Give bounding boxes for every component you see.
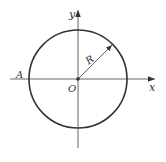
diagram-svg: y x O A R	[0, 0, 166, 162]
point-a-label: A	[15, 69, 23, 80]
x-axis-label: x	[149, 81, 156, 94]
origin-point	[76, 77, 80, 81]
y-axis-label: y	[68, 8, 76, 21]
origin-label: O	[68, 83, 76, 94]
radius-label: R	[82, 53, 96, 67]
circle-diagram: y x O A R	[0, 0, 166, 162]
